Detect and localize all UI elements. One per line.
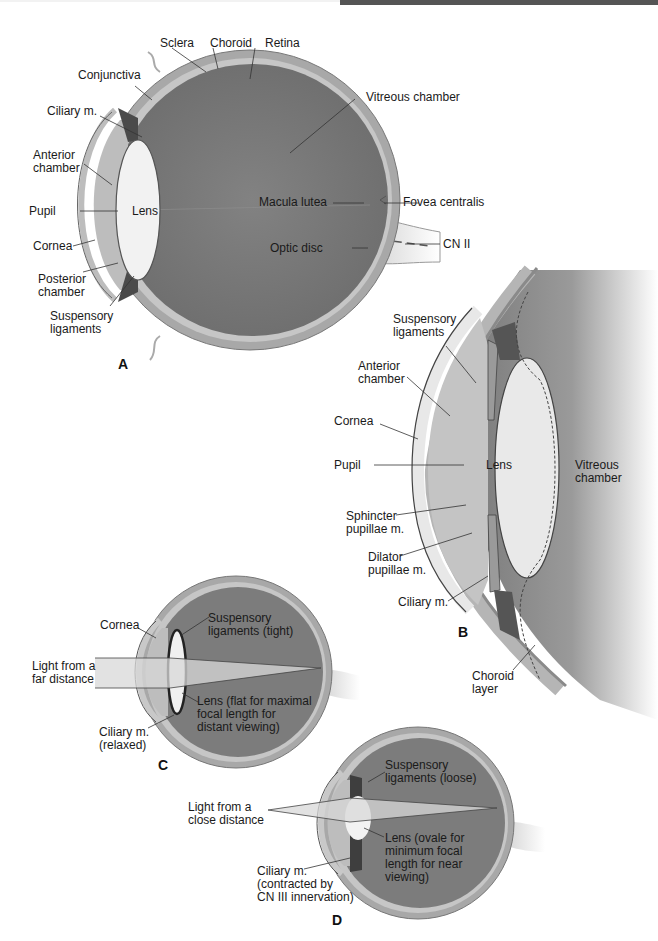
- label-b-choroid-layer: Choroid layer: [472, 670, 514, 696]
- label-b-sphincter-pupillae: Sphincter pupillae m.: [346, 510, 404, 536]
- label-b-pupil: Pupil: [334, 459, 361, 472]
- panel-letter-a: A: [118, 356, 128, 372]
- label-a-anterior-chamber: Anterior chamber: [33, 149, 80, 175]
- label-a-optic-disc: Optic disc: [270, 242, 323, 255]
- label-a-pupil: Pupil: [29, 205, 56, 218]
- panel-letter-b: B: [458, 624, 468, 640]
- label-a-retina: Retina: [265, 37, 300, 50]
- label-a-suspensory-ligaments: Suspensory ligaments: [50, 310, 113, 336]
- label-b-vitreous-chamber: Vitreous chamber: [575, 459, 622, 485]
- label-b-suspensory-ligaments: Suspensory ligaments: [393, 313, 456, 339]
- label-d-ciliary-m: Ciliary m. (contracted by CN III innerva…: [257, 865, 354, 904]
- panel-letter-c: C: [158, 757, 168, 773]
- label-d-lens: Lens (ovale for minimum focal length for…: [385, 832, 464, 884]
- label-b-ciliary-m: Ciliary m.: [398, 596, 448, 609]
- label-a-cn-ii: CN II: [443, 238, 470, 251]
- label-d-light-close: Light from a close distance: [188, 801, 264, 827]
- label-a-choroid: Choroid: [210, 37, 252, 50]
- label-c-lens: Lens (flat for maximal focal length for …: [197, 695, 312, 734]
- label-c-ciliary-m: Ciliary m. (relaxed): [99, 726, 149, 752]
- label-c-light-far: Light from a far distance: [32, 660, 95, 686]
- label-b-anterior-chamber: Anterior chamber: [358, 360, 405, 386]
- label-b-cornea: Cornea: [334, 415, 373, 428]
- label-c-suspensory-ligaments: Suspensory ligaments (tight): [208, 612, 293, 638]
- label-d-suspensory-ligaments: Suspensory ligaments (loose): [385, 759, 476, 785]
- label-a-fovea-centralis: Fovea centralis: [403, 196, 484, 209]
- label-b-dilator-pupillae: Dilator pupillae m.: [368, 551, 426, 577]
- panel-letter-d: D: [332, 912, 342, 928]
- label-a-conjunctiva: Conjunctiva: [78, 69, 141, 82]
- label-a-ciliary-m: Ciliary m.: [47, 105, 97, 118]
- label-a-vitreous-chamber: Vitreous chamber: [366, 91, 460, 104]
- label-a-lens: Lens: [132, 205, 158, 218]
- label-a-cornea: Cornea: [33, 240, 72, 253]
- label-a-macula-lutea: Macula lutea: [259, 196, 327, 209]
- label-b-lens: Lens: [486, 459, 512, 472]
- label-c-cornea: Cornea: [100, 619, 139, 632]
- label-a-sclera: Sclera: [160, 37, 194, 50]
- label-a-posterior-chamber: Posterior chamber: [38, 273, 86, 299]
- eye-anatomy-illustration: [0, 0, 658, 941]
